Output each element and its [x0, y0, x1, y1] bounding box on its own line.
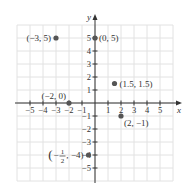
x-tick-label: 4 [145, 105, 150, 115]
svg-text:(: ( [48, 147, 52, 162]
point-label: (−2, 0) [41, 91, 66, 101]
point-label: (1.5, 1.5) [120, 79, 153, 89]
data-point [86, 152, 91, 157]
svg-text:2: 2 [61, 157, 65, 165]
y-tick-label: 3 [87, 59, 91, 69]
point-label: (0, 5) [99, 33, 119, 43]
svg-text:−4): −4) [71, 150, 84, 160]
y-axis-label: y [86, 12, 91, 22]
data-point [92, 35, 97, 40]
y-tick-label: −2 [82, 124, 91, 134]
y-tick-label: −5 [82, 163, 91, 173]
svg-text:1: 1 [61, 148, 65, 156]
coordinate-plane: xy −5−4−3−2−112345−5−4−3−2−112345 (−3, 5… [0, 0, 196, 193]
x-tick-label: −5 [25, 105, 34, 115]
data-point [118, 113, 123, 118]
data-point [66, 100, 71, 105]
x-axis-label: x [176, 105, 181, 115]
x-tick-label: −3 [51, 105, 60, 115]
y-tick-label: −1 [82, 111, 91, 121]
data-point [112, 81, 117, 86]
svg-text:,: , [66, 150, 68, 160]
point-label: (−3, 5) [26, 33, 51, 43]
y-tick-label: 5 [87, 33, 91, 43]
y-tick-label: 1 [87, 85, 91, 95]
x-tick-label: −4 [38, 105, 48, 115]
x-tick-label: −2 [64, 105, 73, 115]
y-tick-label: −3 [82, 137, 91, 147]
x-tick-label: 5 [158, 105, 162, 115]
x-tick-label: 3 [132, 105, 136, 115]
point-label: (2, −1) [124, 118, 149, 128]
x-tick-label: 1 [106, 105, 110, 115]
point-label: −4),12−( [48, 147, 83, 165]
y-tick-label: 2 [87, 72, 91, 82]
data-point [53, 35, 58, 40]
y-axis-arrow-icon [93, 14, 98, 20]
svg-text:−: − [53, 150, 58, 160]
